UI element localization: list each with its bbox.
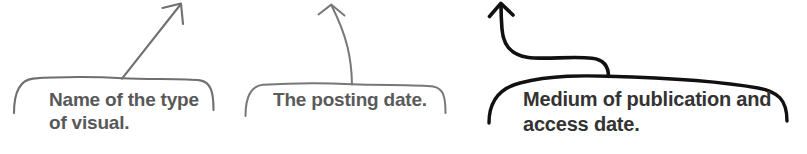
arrow-1-shaft	[122, 5, 181, 79]
callout-label-medium-and-access-date: Medium of publication and access date.	[523, 87, 788, 137]
arrow-2-shaft	[332, 6, 353, 85]
figure-canvas: Name of the type of visual. The posting …	[0, 0, 807, 154]
arrow-3-shaft	[501, 5, 609, 77]
callout-label-type-of-visual: Name of the type of visual.	[49, 88, 209, 134]
callout-label-posting-date: The posting date.	[273, 88, 443, 111]
